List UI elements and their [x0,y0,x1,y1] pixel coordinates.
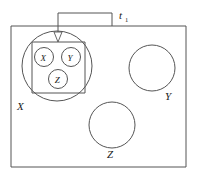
inner-circle-x-label: X [40,53,47,63]
inner-circle-y-label: Y [68,53,74,63]
arrow-head-icon [54,32,62,42]
circle-z [89,102,135,148]
pointer-arrow [54,30,62,42]
inner-circle-z-label: Z [55,75,61,85]
circle-z-label: Z [107,148,114,160]
big-circle-x-label: X [16,100,25,112]
bracket-connector [58,13,112,30]
circle-y-label: Y [165,90,173,102]
diagram-svg: t 1 X Y Z X Y Z [0,0,197,176]
bracket-label-subscript: 1 [125,16,128,23]
figure-canvas: t 1 X Y Z X Y Z [0,0,197,176]
circle-y [129,45,175,91]
bracket-label: t [119,9,123,21]
universe-rectangle [11,26,186,167]
